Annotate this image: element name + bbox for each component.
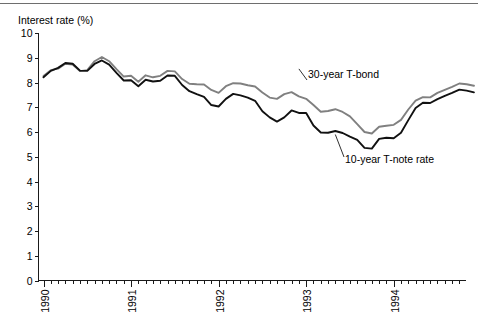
y-axis-tick-label: 8 — [27, 77, 33, 89]
x-axis-tick-label: 1992 — [214, 289, 226, 313]
series-line-10-year-t-note — [44, 60, 474, 148]
series-label-30-year-t-bond: 30-year T-bond — [308, 68, 379, 80]
series-label-10-year-t-note: 10-year T-note rate — [345, 153, 434, 165]
y-axis-tick-label: 2 — [27, 225, 33, 237]
series-line-30-year-t-bond — [44, 57, 474, 133]
y-axis-tick-label: 9 — [27, 52, 33, 64]
x-axis-tick-label: 1991 — [126, 289, 138, 313]
chart-canvas: Interest rate (%) 012345678910 199019911… — [0, 0, 478, 318]
x-axis-tick-label: 1994 — [389, 289, 401, 313]
y-axis-title: Interest rate (%) — [18, 14, 93, 26]
x-axis-ticks — [45, 281, 460, 287]
annotation-leader-t-note — [335, 135, 344, 158]
x-axis-tick-label: 1990 — [39, 289, 51, 313]
x-axis-tick-label: 1993 — [301, 289, 313, 313]
annotation-leader-t-bond — [299, 69, 307, 80]
y-axis-tick-label: 5 — [27, 151, 33, 163]
y-axis-ticks: 012345678910 — [21, 27, 39, 287]
interest-rate-line-chart: Interest rate (%) 012345678910 199019911… — [0, 0, 478, 318]
x-axis-tick-labels: 19901991199219931994 — [39, 289, 401, 313]
y-axis-tick-label: 10 — [21, 27, 33, 39]
y-axis-tick-label: 3 — [27, 200, 33, 212]
y-axis-tick-label: 4 — [27, 176, 33, 188]
y-axis-tick-label: 7 — [27, 101, 33, 113]
y-axis-tick-label: 6 — [27, 126, 33, 138]
y-axis-tick-label: 0 — [27, 275, 33, 287]
y-axis-tick-label: 1 — [27, 250, 33, 262]
